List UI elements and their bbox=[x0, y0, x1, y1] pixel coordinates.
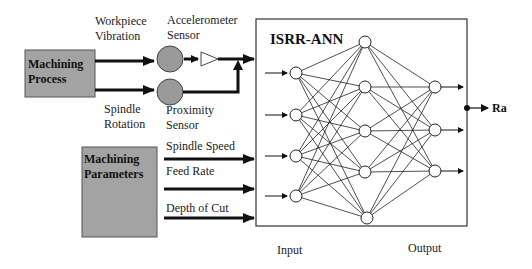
hidden-node bbox=[359, 166, 371, 178]
spindle-speed-label: Spindle Speed bbox=[166, 139, 235, 153]
input-node bbox=[290, 150, 302, 162]
output-node bbox=[429, 124, 441, 136]
output-node bbox=[429, 81, 441, 93]
input-node bbox=[290, 109, 302, 121]
output-layer-label: Output bbox=[408, 241, 442, 255]
hidden-node bbox=[359, 81, 371, 93]
junction-arrow-icon bbox=[233, 60, 243, 70]
input-layer-label: Input bbox=[277, 243, 303, 257]
isrr-ann-diagram: Machining Process Workpiece Vibration Ac… bbox=[0, 0, 532, 269]
feed-rate-label: Feed Rate bbox=[166, 164, 214, 178]
proximity-sensor-icon bbox=[157, 79, 183, 105]
proximity-output-line bbox=[183, 66, 238, 92]
machining-parameters-block: Machining Parameters bbox=[82, 147, 157, 237]
machining-process-label-line1: Machining bbox=[28, 57, 83, 71]
rotation-label: Rotation bbox=[104, 117, 145, 131]
input-node bbox=[290, 67, 302, 79]
output-node bbox=[429, 165, 441, 177]
accelerometer-sensor-icon bbox=[157, 46, 183, 72]
ra-label: Ra bbox=[492, 101, 507, 115]
proximity-sensor-label: Sensor bbox=[166, 118, 199, 132]
machining-process-label-line2: Process bbox=[28, 72, 67, 86]
amplifier-icon bbox=[201, 52, 218, 66]
vibration-label: Vibration bbox=[95, 29, 140, 43]
hidden-node bbox=[359, 125, 371, 137]
hidden-node bbox=[359, 36, 371, 48]
machining-process-block: Machining Process bbox=[25, 50, 95, 97]
spindle-label: Spindle bbox=[104, 102, 141, 116]
hidden-node bbox=[361, 212, 373, 224]
input-node bbox=[290, 190, 302, 202]
ann-title: ISRR-ANN bbox=[270, 31, 344, 47]
accelerometer-label: Accelerometer bbox=[167, 13, 238, 27]
accelerometer-sensor-label: Sensor bbox=[167, 28, 200, 42]
machining-parameters-label-line1: Machining bbox=[84, 152, 139, 166]
workpiece-label: Workpiece bbox=[95, 14, 147, 28]
machining-parameters-label-line2: Parameters bbox=[84, 167, 144, 181]
depth-of-cut-label: Depth of Cut bbox=[166, 201, 229, 215]
